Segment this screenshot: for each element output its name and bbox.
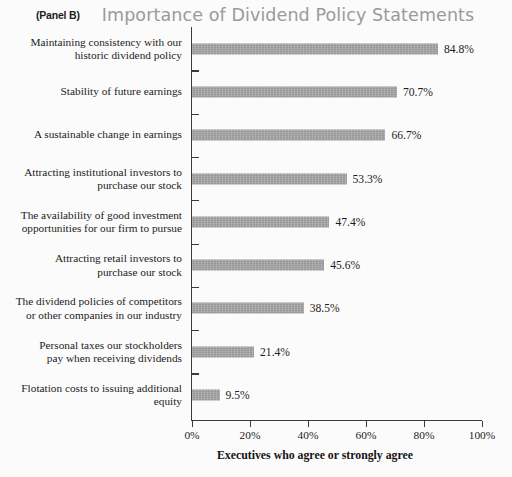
x-axis-tick-label: 100% — [469, 429, 496, 441]
chart-row: A sustainable change in earnings66.7% — [0, 114, 512, 157]
chart-row: The dividend policies of competitors or … — [0, 287, 512, 330]
bar-value-label: 21.4% — [260, 345, 290, 358]
x-axis-tick — [482, 421, 483, 427]
bar — [192, 346, 254, 357]
bar-value-label: 9.5% — [226, 389, 250, 402]
bar-value-label: 84.8% — [444, 42, 474, 55]
bar-value-label: 38.5% — [310, 302, 340, 315]
x-axis-tick-label: 20% — [240, 429, 261, 441]
chart-row: The availability of good investment oppo… — [0, 200, 512, 243]
category-label: Attracting retail investors to purchase … — [6, 252, 182, 279]
category-label: Flotation costs to issuing additional eq… — [6, 382, 182, 409]
page-title: Importance of Dividend Policy Statements — [102, 5, 475, 25]
bar — [192, 390, 220, 401]
y-axis-tick — [192, 157, 199, 158]
x-axis-tick-label: 60% — [356, 429, 377, 441]
chart-row: Attracting institutional investors to pu… — [0, 157, 512, 200]
y-axis-tick — [192, 70, 199, 71]
bar — [192, 303, 304, 314]
chart-row: Stability of future earnings70.7% — [0, 70, 512, 113]
category-label: Maintaining consistency with our histori… — [6, 35, 182, 62]
y-axis-tick — [192, 287, 199, 288]
y-axis-tick — [192, 244, 199, 245]
bar-value-label: 70.7% — [403, 85, 433, 98]
bar — [192, 130, 385, 141]
x-axis-tick — [424, 421, 425, 427]
bar-value-label: 45.6% — [330, 259, 360, 272]
x-axis-tick-label: 80% — [414, 429, 435, 441]
y-axis-tick — [192, 114, 199, 115]
x-axis-tick — [308, 421, 309, 427]
x-axis-tick-label: 0% — [184, 429, 199, 441]
y-axis-tick — [192, 330, 199, 331]
chart-row: Flotation costs to issuing additional eq… — [0, 373, 512, 416]
x-axis-tick — [192, 421, 193, 427]
bar — [192, 86, 397, 97]
y-axis-tick — [192, 200, 199, 201]
category-label: The availability of good investment oppo… — [6, 208, 182, 235]
x-axis-tick — [250, 421, 251, 427]
x-axis-caption: Executives who agree or strongly agree — [0, 448, 512, 463]
chart-row: Attracting retail investors to purchase … — [0, 244, 512, 287]
bar — [192, 43, 438, 54]
y-axis-tick — [192, 373, 199, 374]
chart-row: Maintaining consistency with our histori… — [0, 27, 512, 70]
x-axis-line — [191, 420, 482, 421]
chart-plot-area: Maintaining consistency with our histori… — [0, 27, 512, 423]
category-label: Personal taxes our stockholders pay when… — [6, 338, 182, 365]
bar-value-label: 47.4% — [335, 215, 365, 228]
bar — [192, 173, 347, 184]
bar-value-label: 53.3% — [353, 172, 383, 185]
chart-header: (Panel B) Importance of Dividend Policy … — [0, 0, 512, 30]
x-axis-tick-label: 40% — [298, 429, 319, 441]
category-label: The dividend policies of competitors or … — [6, 295, 182, 322]
bar — [192, 216, 329, 227]
panel-label: (Panel B) — [36, 9, 80, 21]
bar — [192, 260, 324, 271]
category-label: A sustainable change in earnings — [6, 129, 182, 142]
x-axis-tick — [366, 421, 367, 427]
bar-value-label: 66.7% — [391, 129, 421, 142]
category-label: Attracting institutional investors to pu… — [6, 165, 182, 192]
chart-row: Personal taxes our stockholders pay when… — [0, 330, 512, 373]
category-label: Stability of future earnings — [6, 85, 182, 98]
